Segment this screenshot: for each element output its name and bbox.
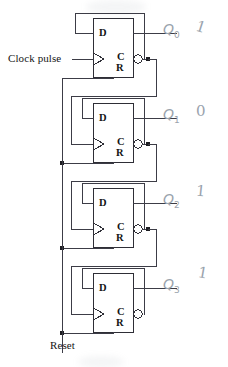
ff2-feedback-wire — [82, 183, 144, 229]
reset-label: Reset — [50, 340, 75, 351]
ripple-counter-diagram: D C R D C R D C R D C R Clock pulse Rese… — [0, 0, 228, 367]
ff3-r-label: R — [116, 318, 124, 329]
ff0-d-label: D — [99, 28, 107, 39]
ff1-qbar-bubble — [134, 140, 142, 148]
q2-bit-value: 1 — [195, 184, 206, 200]
ff3-d-label: D — [99, 283, 107, 294]
ff3-reset-wire — [62, 333, 113, 334]
ff1-d-label: D — [99, 113, 107, 124]
ff0-cascade-wire — [71, 59, 156, 144]
q1-annotation: Q1 — [163, 107, 180, 125]
q2-annotation: Q2 — [163, 192, 180, 210]
q1-annotation-sub: 1 — [174, 115, 180, 125]
ff1-r-label: R — [116, 148, 124, 159]
q0-annotation: Q0 — [163, 22, 180, 40]
ff1-c-label: C — [117, 137, 125, 148]
ff0-reset-wire — [62, 78, 113, 79]
q1-bit-value: 0 — [196, 104, 206, 119]
ff3-qbar-bubble — [134, 310, 142, 318]
ff2-clock-triangle — [94, 223, 105, 235]
ff3-c-label: C — [117, 307, 125, 318]
q3-annotation-text: Q — [163, 276, 174, 292]
ff2-c-label: C — [117, 222, 125, 233]
q3-annotation-sub: 3 — [174, 285, 180, 295]
q0-annotation-sub: 0 — [174, 30, 180, 40]
ff2-d-label: D — [99, 198, 107, 209]
ff3-clock-triangle — [94, 308, 105, 320]
ff2-qbar-bubble — [134, 225, 142, 233]
ff1-clock-triangle — [94, 138, 105, 150]
q2-annotation-text: Q — [163, 191, 174, 207]
ff0-r-label: R — [116, 63, 124, 74]
ff0-clock-triangle — [94, 53, 105, 65]
ff0-c-label: C — [117, 52, 125, 63]
ff1-feedback-wire — [82, 98, 144, 144]
ff1-reset-wire — [62, 163, 113, 164]
ff3-feedback-wire — [82, 268, 144, 314]
ff0-qbar-bubble — [134, 55, 142, 63]
ff2-cascade-wire — [71, 229, 156, 314]
q3-annotation: Q3 — [163, 277, 180, 295]
q0-annotation-text: Q — [163, 21, 174, 37]
ff1-cascade-wire — [71, 144, 156, 229]
ff2-r-label: R — [116, 233, 124, 244]
ff2-reset-wire — [62, 248, 113, 249]
q1-annotation-text: Q — [163, 106, 174, 122]
q2-annotation-sub: 2 — [174, 200, 180, 210]
clock-pulse-label: Clock pulse — [8, 53, 61, 64]
